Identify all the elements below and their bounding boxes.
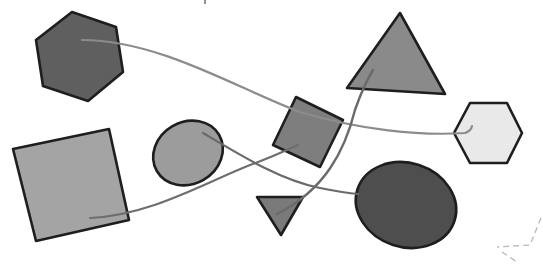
hexagon-top-left-hexagon[interactable] [36, 12, 123, 101]
node-layer [13, 12, 522, 261]
diagram-canvas [0, 0, 543, 264]
shapes-diagram [0, 0, 543, 264]
ellipse-bottom-right-ellipse[interactable] [345, 149, 468, 260]
square-center-square[interactable] [273, 97, 343, 167]
ellipse-center-left-ellipse[interactable] [141, 108, 234, 198]
triangle-top-right-triangle[interactable] [347, 13, 445, 94]
dashed-tail [502, 252, 517, 262]
dashed-corner [497, 218, 541, 247]
square-bottom-left-square[interactable] [13, 129, 129, 241]
